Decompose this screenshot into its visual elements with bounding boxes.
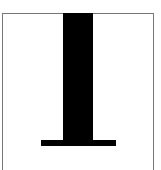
i-beam-base-icon: [41, 140, 116, 146]
i-beam-stem-icon: [63, 13, 93, 146]
